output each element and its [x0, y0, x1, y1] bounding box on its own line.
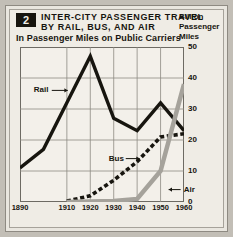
chart-card: 2 INTER-CITY PASSENGER TRAVEL BY RAIL, B… — [5, 5, 228, 232]
y-tick-30: 30 — [188, 105, 197, 113]
x-tick-1890: 1890 — [7, 204, 33, 212]
y-tick-20: 20 — [188, 136, 197, 144]
y-tick-10: 10 — [188, 167, 197, 175]
y-tick-40: 40 — [188, 74, 197, 82]
y-tick-50: 50 — [188, 43, 197, 51]
unit-line-3: Miles — [179, 32, 223, 42]
figure-number-badge: 2 — [16, 13, 36, 27]
unit-line-2: Passenger — [179, 22, 223, 32]
x-tick-1960: 1960 — [171, 204, 197, 212]
y-axis-unit-label: Billion Passenger Miles — [179, 12, 223, 42]
chart-svg — [20, 47, 184, 202]
series-line-rail — [20, 56, 184, 168]
chart-title-line-2: BY RAIL, BUS, AND AIR — [41, 23, 155, 32]
series-label-rail: Rail — [34, 86, 49, 94]
x-tick-1950: 1950 — [148, 204, 174, 212]
screenshot-frame: 2 INTER-CITY PASSENGER TRAVEL BY RAIL, B… — [0, 0, 233, 237]
x-tick-1930: 1930 — [101, 204, 127, 212]
plot-area — [20, 47, 184, 202]
series-line-air — [67, 84, 184, 202]
series-label-air: Air — [184, 186, 195, 194]
x-tick-1910: 1910 — [54, 204, 80, 212]
chart-subtitle: In Passenger Miles on Public Carriers — [16, 34, 181, 43]
series-label-bus: Bus — [109, 155, 124, 163]
chart-card-inner: 2 INTER-CITY PASSENGER TRAVEL BY RAIL, B… — [9, 9, 224, 228]
unit-line-1: Billion — [179, 12, 223, 22]
x-tick-1940: 1940 — [124, 204, 150, 212]
gridlines — [20, 47, 184, 202]
x-tick-1920: 1920 — [77, 204, 103, 212]
